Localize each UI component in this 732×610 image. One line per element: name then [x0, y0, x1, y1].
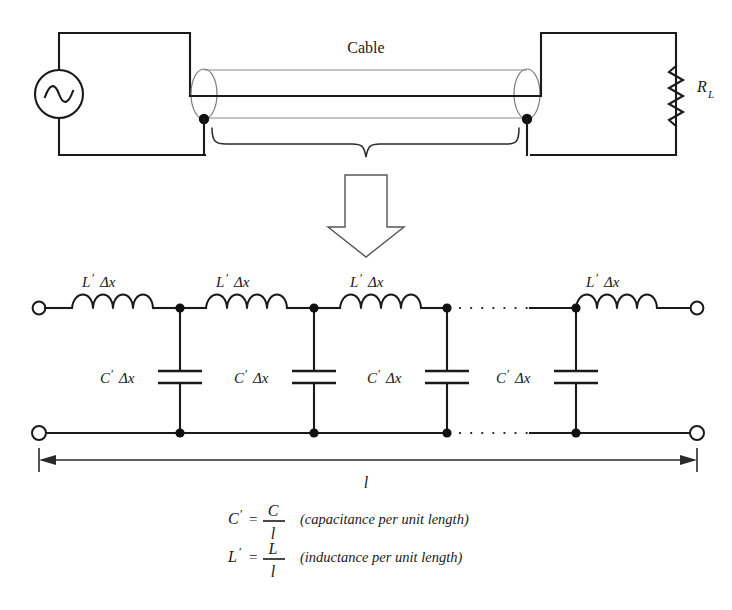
figure-canvas: Cable R L [0, 0, 732, 610]
capacitor-4-label-prime: ′ [507, 367, 510, 381]
cable-left-end-ellipse [191, 69, 217, 119]
capacitor-3-label-symbol: C [367, 370, 378, 386]
inductor-1 [72, 295, 153, 309]
inductor-1-label-prime: ′ [92, 271, 95, 285]
eq-ind-note: (inductance per unit length) [300, 549, 462, 566]
capacitor-branch-4 [554, 303, 598, 437]
load-loop [531, 33, 676, 155]
length-dimension: l [39, 448, 697, 491]
inductor-3-label-delta: Δx [367, 274, 384, 290]
eq-cap-equals: = [249, 511, 257, 527]
capacitor-4-label: C ′ Δx [496, 367, 531, 386]
dim-arrowhead-right [680, 455, 697, 465]
lc-ladder-network: L ′ Δx L ′ Δx L ′ Δx L ′ Δx C ′ [32, 271, 704, 440]
cap-1-top-node-dot [175, 303, 184, 312]
inductor-3 [340, 295, 421, 309]
inductor-1-label-delta: Δx [99, 274, 116, 290]
eq-cap-numerator: C [268, 502, 279, 519]
brace-path [212, 128, 519, 157]
capacitor-branch-3 [425, 303, 469, 437]
down-arrow-icon [328, 175, 404, 257]
cap-1-bottom-node-dot [175, 428, 184, 437]
inductor-4-label: L ′ Δx [585, 271, 620, 290]
inductor-3-label: L ′ Δx [349, 271, 384, 290]
inductor-3-label-prime: ′ [360, 271, 363, 285]
eq-ind-lhs-prime: ′ [239, 545, 242, 559]
inductor-2-label-prime: ′ [226, 271, 229, 285]
eq-ind-denominator: l [271, 563, 276, 580]
capacitor-1-label: C ′ Δx [100, 367, 135, 386]
eq-ind-equals: = [249, 549, 257, 565]
equation-inductance: L ′ = L l (inductance per unit length) [227, 540, 462, 580]
capacitor-branch-2 [292, 303, 336, 437]
inductor-2-label-delta: Δx [233, 274, 250, 290]
inductor-2-label: L ′ Δx [215, 271, 250, 290]
ladder-terminal-bottom-left [32, 426, 46, 440]
dim-arrowhead-left [39, 455, 56, 465]
inductor-4-label-prime: ′ [596, 271, 599, 285]
ladder-terminal-top-left [33, 302, 46, 315]
expansion-brace [212, 128, 519, 157]
capacitor-1-label-symbol: C [100, 370, 111, 386]
cap-2-bottom-node-dot [309, 428, 318, 437]
capacitor-1-label-delta: Δx [118, 370, 135, 386]
inductor-3-label-symbol: L [349, 274, 358, 290]
capacitor-2-label: C ′ Δx [234, 367, 269, 386]
capacitor-1-label-prime: ′ [111, 367, 114, 381]
inductor-4-label-delta: Δx [603, 274, 620, 290]
capacitor-4-label-delta: Δx [514, 370, 531, 386]
eq-ind-lhs-symbol: L [227, 548, 237, 565]
capacitor-4-label-symbol: C [496, 370, 507, 386]
inductor-2-label-symbol: L [215, 274, 224, 290]
eq-ind-numerator: L [268, 540, 278, 557]
ladder-terminal-top-right [691, 302, 704, 315]
cable-label: Cable [347, 39, 384, 56]
cap-2-top-node-dot [309, 303, 318, 312]
ladder-terminal-bottom-right [690, 426, 704, 440]
capacitor-2-label-symbol: C [234, 370, 245, 386]
cap-3-bottom-node-dot [442, 428, 451, 437]
length-label: l [364, 474, 369, 491]
capacitor-3-label-delta: Δx [385, 370, 402, 386]
eq-cap-note: (capacitance per unit length) [300, 511, 469, 528]
capacitor-3-label: C ′ Δx [367, 367, 402, 386]
cable-tube [190, 69, 541, 119]
eq-cap-lhs-prime: ′ [240, 507, 243, 521]
capacitor-3-label-prime: ′ [378, 367, 381, 381]
load-loop-wire [531, 33, 676, 155]
cable-right-end-ellipse [514, 69, 540, 119]
inductor-4-coil-icon [576, 295, 657, 309]
load-resistor-label-subscript: L [707, 88, 714, 100]
inductor-2 [206, 295, 287, 309]
inductor-1-label-symbol: L [81, 274, 90, 290]
load-resistor-label: R [696, 78, 707, 95]
cap-4-bottom-node-dot [571, 428, 580, 437]
capacitor-branch-1 [158, 303, 202, 437]
eq-cap-lhs-symbol: C [228, 510, 239, 527]
inductor-2-coil-icon [206, 295, 287, 309]
ac-source [35, 70, 83, 118]
capacitor-2-label-delta: Δx [252, 370, 269, 386]
capacitor-2-label-prime: ′ [245, 367, 248, 381]
inductor-1-coil-icon [72, 295, 153, 309]
cap-4-top-node-dot [571, 303, 580, 312]
inductor-1-label: L ′ Δx [81, 271, 116, 290]
inductor-3-coil-icon [340, 295, 421, 309]
equation-capacitance: C ′ = C l (capacitance per unit length) [228, 502, 469, 542]
inductor-4-label-symbol: L [585, 274, 594, 290]
expansion-arrow [328, 175, 404, 257]
cap-3-top-node-dot [442, 303, 451, 312]
inductor-4 [576, 295, 657, 309]
top-circuit-group: Cable R L [35, 33, 714, 155]
